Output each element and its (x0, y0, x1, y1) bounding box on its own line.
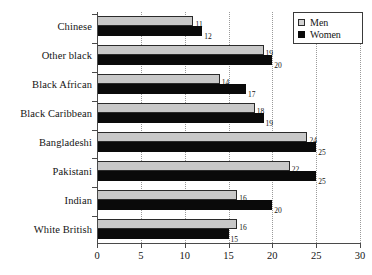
bar-men (97, 190, 237, 200)
category-label: Bangladeshi (0, 136, 92, 147)
x-axis-tick-label: 5 (138, 250, 143, 262)
bar-value-women: 20 (274, 62, 282, 70)
x-axis-tick-label: 20 (267, 250, 278, 262)
y-axis-tick (92, 43, 97, 44)
legend-item: Men (298, 16, 358, 28)
legend-label: Men (310, 17, 328, 28)
legend-item: Women (298, 28, 358, 40)
bar-women (97, 171, 316, 181)
y-axis-tick (92, 216, 97, 217)
x-axis-tick (97, 244, 98, 248)
bar-men (97, 103, 255, 113)
chart-legend: MenWomen (293, 12, 363, 44)
x-axis-tick (272, 244, 273, 248)
gridline (360, 12, 361, 243)
bar-women (97, 113, 264, 123)
legend-label: Women (310, 29, 341, 40)
x-axis-tick (141, 244, 142, 248)
y-axis-tick (92, 101, 97, 102)
bar-value-women: 19 (266, 120, 274, 128)
category-label: White British (0, 223, 92, 234)
y-axis-tick (92, 158, 97, 159)
bar-value-women: 17 (248, 91, 256, 99)
x-axis-tick (360, 244, 361, 248)
x-axis-tick-label: 15 (223, 250, 234, 262)
category-axis-labels: ChineseOther blackBlack AfricanBlack Car… (0, 12, 92, 243)
category-label: Pakistani (0, 165, 92, 176)
bar-value-men: 16 (239, 224, 247, 232)
y-axis-tick (92, 130, 97, 131)
category-label: Black African (0, 79, 92, 90)
bar-value-women: 25 (318, 178, 326, 186)
bar-value-women: 25 (318, 149, 326, 157)
category-label: Indian (0, 194, 92, 205)
bar-women (97, 26, 202, 36)
bar-women (97, 55, 272, 65)
bar-men (97, 74, 220, 84)
bar-men (97, 132, 307, 142)
y-axis-tick (92, 187, 97, 188)
bar-men (97, 45, 264, 55)
women-swatch-icon (298, 31, 305, 38)
bar-women (97, 200, 272, 210)
category-label: Other black (0, 50, 92, 61)
category-label: Chinese (0, 21, 92, 32)
y-axis-tick (92, 72, 97, 73)
plot-area: 11121920141718192425222516201615 (97, 12, 360, 243)
men-swatch-icon (298, 19, 305, 26)
bar-value-women: 12 (204, 33, 212, 41)
x-axis-tick-label: 10 (179, 250, 190, 262)
x-axis-tick-label: 25 (311, 250, 322, 262)
bar-men (97, 16, 193, 26)
y-axis-line (97, 12, 98, 244)
bar-men (97, 161, 290, 171)
y-axis-tick (92, 14, 97, 15)
gridline (316, 12, 317, 243)
bar-chart: ChineseOther blackBlack AfricanBlack Car… (0, 0, 372, 275)
bar-value-women: 20 (274, 207, 282, 215)
category-label: Black Caribbean (0, 108, 92, 119)
bar-women (97, 142, 316, 152)
x-axis-tick-label: 0 (94, 250, 99, 262)
x-axis-tick-label: 30 (355, 250, 366, 262)
bar-women (97, 84, 246, 94)
x-axis-tick (316, 244, 317, 248)
bar-men (97, 219, 237, 229)
x-axis-tick (185, 244, 186, 248)
bar-women (97, 229, 229, 239)
x-axis-tick (229, 244, 230, 248)
